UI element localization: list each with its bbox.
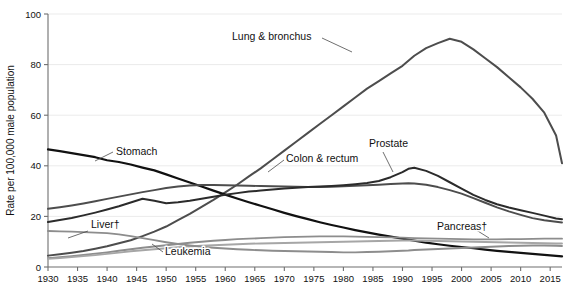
x-tick-label: 1995 xyxy=(421,273,442,284)
x-tick-label: 1960 xyxy=(215,273,236,284)
series-label-pancreas: Pancreas† xyxy=(437,220,487,232)
y-tick-label: 40 xyxy=(30,160,41,171)
x-tick-label: 1955 xyxy=(185,273,206,284)
x-tick-label: 2005 xyxy=(481,273,502,284)
chart-container: 0204060801001930193519401945195019551960… xyxy=(0,0,572,295)
x-tick-label: 2010 xyxy=(510,273,531,284)
x-tick-label: 1970 xyxy=(274,273,295,284)
x-tick-label: 2015 xyxy=(540,273,561,284)
series-label-lung-bronchus: Lung & bronchus xyxy=(232,30,311,42)
series-label-stomach: Stomach xyxy=(116,145,158,157)
y-tick-label: 100 xyxy=(25,9,41,20)
x-tick-label: 1930 xyxy=(37,273,58,284)
y-tick-label: 20 xyxy=(30,211,41,222)
x-tick-label: 1935 xyxy=(67,273,88,284)
label-leader-line xyxy=(383,152,393,172)
x-tick-label: 1975 xyxy=(303,273,324,284)
x-tick-label: 1965 xyxy=(244,273,265,284)
line-chart: 0204060801001930193519401945195019551960… xyxy=(0,0,572,295)
x-tick-label: 1940 xyxy=(97,273,118,284)
x-tick-label: 1990 xyxy=(392,273,413,284)
y-tick-label: 0 xyxy=(36,262,41,273)
x-tick-label: 1980 xyxy=(333,273,354,284)
series-label-prostate: Prostate xyxy=(369,137,408,149)
y-tick-label: 80 xyxy=(30,59,41,70)
series-label-leukemia: Leukemia xyxy=(165,245,211,257)
series-label-liver: Liver† xyxy=(91,218,120,230)
label-leader-line xyxy=(322,38,352,52)
x-tick-label: 1950 xyxy=(156,273,177,284)
x-tick-label: 1985 xyxy=(362,273,383,284)
x-tick-label: 1945 xyxy=(126,273,147,284)
y-tick-label: 60 xyxy=(30,110,41,121)
x-tick-label: 2000 xyxy=(451,273,472,284)
y-axis-title: Rate per 100,000 male population xyxy=(5,65,16,216)
series-label-colon-rectum: Colon & rectum xyxy=(286,152,359,164)
